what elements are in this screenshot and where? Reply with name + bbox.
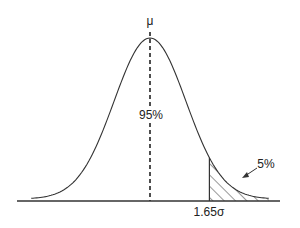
arrow-head-icon: [242, 172, 249, 178]
mean-label: μ: [147, 14, 154, 28]
center-area-label: 95%: [139, 108, 163, 122]
normal-distribution-chart: μ 95% 5% 1.65σ: [0, 0, 300, 228]
tail-area-label: 5%: [257, 157, 275, 171]
critical-value-label: 1.65σ: [194, 205, 225, 219]
